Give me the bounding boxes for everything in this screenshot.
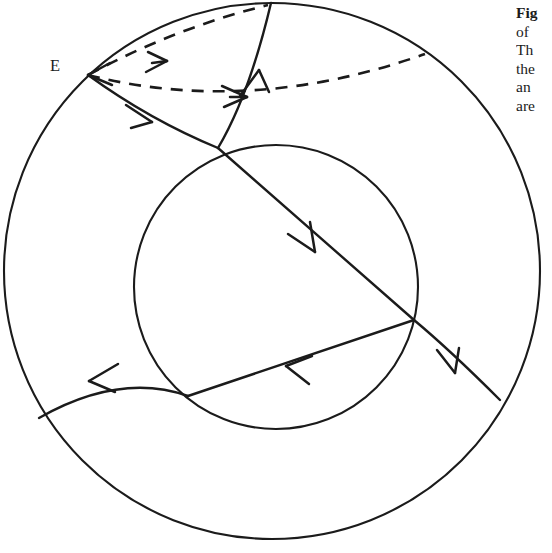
arrowhead-right-to-boundary	[437, 348, 459, 373]
caption-line-3: Th	[516, 41, 552, 60]
caption-line-6: are	[516, 97, 552, 116]
dashed-curve-upper	[88, 5, 268, 75]
geodesic-flow-diagram: .stroke-line { fill: none; stroke: #1b1b…	[0, 0, 552, 553]
arrowhead-dashed-upper	[146, 52, 167, 72]
arrowhead-right-to-left-vertex	[286, 356, 312, 384]
caption-line-1: Fig	[516, 4, 552, 23]
figure-caption: Fig of Th the an are	[516, 4, 552, 116]
arrowhead-left-to-boundary	[89, 364, 118, 392]
caption-line-4: the	[516, 60, 552, 79]
caption-line-2: of	[516, 23, 552, 42]
vertex-label-E: E	[50, 58, 60, 75]
solid-curve-top-vertex-to-right-vertex	[218, 148, 414, 320]
arrowhead-top-to-right-vertex	[288, 222, 315, 252]
figure-canvas: .stroke-line { fill: none; stroke: #1b1b…	[0, 0, 552, 553]
outer-boundary-circle	[4, 3, 540, 539]
caption-line-5: an	[516, 78, 552, 97]
arrowhead-up-to-boundary	[240, 70, 269, 96]
solid-curve-top-vertex-to-boundary	[218, 3, 271, 148]
